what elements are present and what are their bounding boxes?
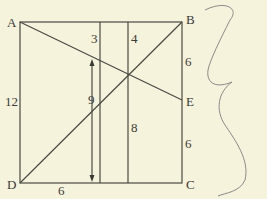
label-top-middle-right: 4 xyxy=(131,31,138,46)
label-left-side: 12 xyxy=(5,94,18,109)
label-right-lower: 6 xyxy=(185,136,192,151)
label-inner-vertical: 8 xyxy=(131,120,138,135)
point-label-b: B xyxy=(186,12,195,27)
point-label-a: A xyxy=(7,15,17,30)
point-label-d: D xyxy=(7,177,16,192)
point-label-c: C xyxy=(186,177,195,192)
arrow-down-icon xyxy=(90,175,95,182)
label-top-middle-left: 3 xyxy=(91,31,98,46)
label-bottom-segment: 6 xyxy=(58,183,65,198)
geometry-diagram: A B C D E 12 6 3 4 9 8 6 6 xyxy=(0,0,267,199)
pencil-scribble xyxy=(205,5,246,196)
arrow-up-icon xyxy=(90,59,95,66)
segment-ae xyxy=(20,22,182,100)
segment-db xyxy=(20,22,182,183)
point-label-e: E xyxy=(186,94,194,109)
label-arrow-height: 9 xyxy=(88,92,95,107)
label-right-upper: 6 xyxy=(185,54,192,69)
